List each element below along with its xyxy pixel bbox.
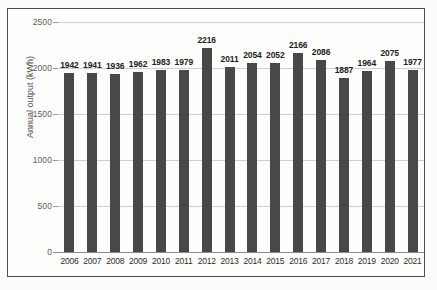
y-axis-tick-label: 500 <box>38 201 52 211</box>
bar-value-label: 1964 <box>358 58 377 68</box>
bars-layer: 1942194119361962198319792216201120542052… <box>58 22 424 252</box>
x-axis-tick-label: 2010 <box>150 256 173 266</box>
bar-slot: 1964 <box>355 22 378 252</box>
bar-slot: 2011 <box>218 22 241 252</box>
bar-value-label: 2052 <box>266 50 285 60</box>
x-axis-tick-label: 2016 <box>287 256 310 266</box>
bar-value-label: 1936 <box>106 61 125 71</box>
x-axis-tick-label: 2019 <box>355 256 378 266</box>
bar[interactable] <box>316 60 326 252</box>
x-axis-tick-label: 2013 <box>218 256 241 266</box>
bar[interactable] <box>179 70 189 252</box>
bar[interactable] <box>339 78 349 252</box>
x-axis-tick-label: 2007 <box>81 256 104 266</box>
bar-value-label: 1979 <box>175 57 194 67</box>
bar[interactable] <box>270 63 280 252</box>
bar[interactable] <box>110 74 120 252</box>
y-axis-tick-label: 0 <box>47 247 52 257</box>
bar-slot: 2086 <box>310 22 333 252</box>
x-axis-tick-label: 2014 <box>241 256 264 266</box>
bar[interactable] <box>385 61 395 252</box>
bar-slot: 1979 <box>172 22 195 252</box>
bar-value-label: 1983 <box>152 57 171 67</box>
bar-value-label: 1942 <box>60 60 79 70</box>
bar-slot: 2075 <box>378 22 401 252</box>
y-axis-tick-label: 1500 <box>33 109 52 119</box>
bar-value-label: 1887 <box>335 65 354 75</box>
y-axis-tick-label: 2000 <box>33 63 52 73</box>
bar-slot: 1941 <box>81 22 104 252</box>
x-axis-tick-label: 2008 <box>104 256 127 266</box>
x-axis-tick-label: 2015 <box>264 256 287 266</box>
y-axis-tick-labels: 05001000150020002500 <box>14 22 52 252</box>
bar[interactable] <box>87 73 97 252</box>
y-axis-tick-label: 2500 <box>33 17 52 27</box>
bar[interactable] <box>156 70 166 252</box>
bar-value-label: 2075 <box>380 48 399 58</box>
bar-value-label: 1962 <box>129 59 148 69</box>
bar-slot: 2216 <box>195 22 218 252</box>
bar-slot: 1887 <box>333 22 356 252</box>
x-axis-tick-labels: 2006200720082009201020112012201320142015… <box>58 256 424 270</box>
bar-slot: 2052 <box>264 22 287 252</box>
bar-value-label: 1941 <box>83 60 102 70</box>
axis-baseline <box>58 252 424 253</box>
bar-slot: 1983 <box>150 22 173 252</box>
x-axis-tick-label: 2021 <box>401 256 424 266</box>
x-axis-tick-label: 2018 <box>333 256 356 266</box>
bar-value-label: 1977 <box>403 57 422 67</box>
bar-slot: 1977 <box>401 22 424 252</box>
bar[interactable] <box>293 53 303 252</box>
x-axis-tick-label: 2020 <box>378 256 401 266</box>
y-axis-tick-mark <box>53 252 58 253</box>
bar[interactable] <box>362 71 372 252</box>
bar-value-label: 2216 <box>197 35 216 45</box>
bar-value-label: 2011 <box>221 54 239 64</box>
bar-slot: 1936 <box>104 22 127 252</box>
x-axis-tick-label: 2009 <box>127 256 150 266</box>
bar-slot: 1942 <box>58 22 81 252</box>
y-axis-tick-label: 1000 <box>33 155 52 165</box>
bar[interactable] <box>202 48 212 252</box>
bar-value-label: 2166 <box>289 40 308 50</box>
bar[interactable] <box>247 63 257 252</box>
x-axis-tick-label: 2012 <box>195 256 218 266</box>
bar[interactable] <box>408 70 418 252</box>
bar-slot: 2054 <box>241 22 264 252</box>
bar-slot: 1962 <box>127 22 150 252</box>
scanned-page-background: Smart technologies and their monthly usa… <box>0 0 437 290</box>
x-axis-tick-label: 2006 <box>58 256 81 266</box>
x-axis-tick-label: 2011 <box>172 256 195 266</box>
bar-value-label: 2086 <box>312 47 331 57</box>
bar[interactable] <box>133 72 143 253</box>
bar[interactable] <box>64 73 74 252</box>
bar-slot: 2166 <box>287 22 310 252</box>
bar-chart-figure: Annual output (kWh) 05001000150020002500… <box>0 0 437 290</box>
bar-value-label: 2054 <box>243 50 262 60</box>
x-axis-tick-label: 2017 <box>310 256 333 266</box>
bar[interactable] <box>225 67 235 252</box>
